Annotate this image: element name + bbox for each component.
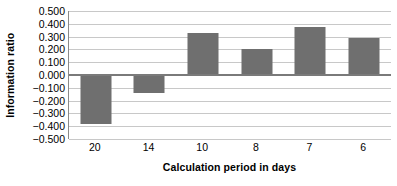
x-axis-tick-label: 14 bbox=[143, 142, 155, 153]
y-axis-tick-label: −0.200 bbox=[33, 95, 65, 106]
y-axis-tick-label: 0.400 bbox=[39, 19, 65, 30]
y-axis-title: Information ratio bbox=[0, 0, 22, 150]
y-axis-tick-labels: 0.5000.4000.3000.2000.1000.000−0.100−0.2… bbox=[22, 11, 68, 139]
y-axis-tick-label: −0.500 bbox=[33, 134, 65, 145]
y-axis-tick-label: 0.000 bbox=[39, 70, 65, 81]
y-axis-tick-label: −0.300 bbox=[33, 108, 65, 119]
bar bbox=[241, 49, 272, 75]
x-axis-tick-label: 8 bbox=[253, 142, 259, 153]
zero-line bbox=[69, 74, 391, 76]
y-axis-tick-label: −0.400 bbox=[33, 121, 65, 132]
x-axis-tick-label: 20 bbox=[89, 142, 101, 153]
plot-area bbox=[68, 11, 391, 139]
x-axis-title: Calculation period in days bbox=[68, 161, 391, 173]
y-axis-tick-label: 0.100 bbox=[39, 57, 65, 68]
bar bbox=[295, 27, 326, 75]
y-axis-tick-label: −0.100 bbox=[33, 83, 65, 94]
x-axis-tick-label: 6 bbox=[360, 142, 366, 153]
bar bbox=[134, 75, 165, 93]
bar-chart: Information ratio 0.5000.4000.3000.2000.… bbox=[0, 0, 397, 186]
x-axis-tick-label: 7 bbox=[307, 142, 313, 153]
y-axis-tick-label: 0.500 bbox=[39, 6, 65, 17]
x-axis-tick-label: 10 bbox=[196, 142, 208, 153]
x-axis-tick-labels: 201410876 bbox=[68, 142, 391, 158]
bar bbox=[349, 38, 380, 75]
bar bbox=[188, 33, 219, 75]
bar bbox=[80, 75, 111, 124]
y-axis-title-text: Information ratio bbox=[6, 32, 17, 117]
y-axis-tick-label: 0.300 bbox=[39, 31, 65, 42]
y-axis-tick-label: 0.200 bbox=[39, 44, 65, 55]
